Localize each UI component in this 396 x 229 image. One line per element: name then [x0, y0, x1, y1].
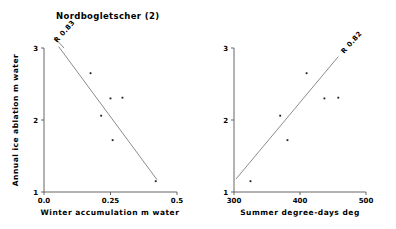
data-point-marker — [279, 115, 281, 117]
x-axis-ticks: 0.00.250.5 — [38, 192, 184, 205]
data-point-marker — [90, 72, 92, 74]
figure-container: Nordbogletscher (2) 123 0.00.250.5 R 0.8… — [0, 0, 396, 229]
data-point — [287, 139, 289, 141]
data-point — [279, 115, 281, 117]
data-point-marker — [250, 180, 252, 182]
y-tick-label: 2 — [223, 117, 228, 125]
plot-area-left: 123 0.00.250.5 R 0.83 Winter accumulatio… — [0, 0, 198, 229]
data-point-marker — [122, 97, 124, 99]
data-point — [122, 97, 124, 99]
scatter-panel-summer-degree-days: 123 300400500 R 0.82 Summer degree-days … — [198, 0, 396, 229]
data-point — [250, 180, 252, 182]
x-tick-label: 0.0 — [38, 197, 51, 205]
y-axis-ticks: 123 — [33, 45, 44, 197]
x-axis-title: Summer degree-days deg — [240, 208, 360, 217]
data-point — [306, 72, 308, 74]
x-tick-label: 0.5 — [171, 197, 184, 205]
data-point-marker — [100, 115, 102, 117]
data-point-marker — [337, 97, 339, 99]
data-point — [112, 139, 114, 141]
data-point — [100, 115, 102, 117]
regression-line — [59, 47, 157, 180]
x-tick-label: 400 — [293, 197, 308, 205]
data-point — [324, 98, 326, 100]
plot-area-right: 123 300400500 R 0.82 Summer degree-days … — [198, 0, 396, 229]
data-point-marker — [155, 180, 157, 182]
y-tick-label: 3 — [33, 45, 38, 53]
y-tick-label: 2 — [33, 117, 38, 125]
correlation-annotation: R 0.83 — [53, 19, 77, 45]
data-point-marker — [110, 98, 112, 100]
x-tick-label: 300 — [227, 197, 242, 205]
data-point — [90, 72, 92, 74]
regression-line — [236, 57, 338, 179]
data-point-group — [250, 72, 340, 182]
y-axis-ticks: 123 — [223, 45, 234, 197]
x-axis-ticks: 300400500 — [227, 192, 374, 205]
data-point-marker — [287, 139, 289, 141]
data-point — [337, 97, 339, 99]
data-point — [155, 180, 157, 182]
correlation-annotation: R 0.82 — [340, 30, 364, 56]
y-tick-label: 1 — [223, 189, 228, 197]
scatter-panel-winter-accumulation: Nordbogletscher (2) 123 0.00.250.5 R 0.8… — [0, 0, 198, 229]
data-point-marker — [324, 98, 326, 100]
y-axis-title: Annual ice ablation m water — [11, 54, 20, 186]
x-tick-label: 500 — [359, 197, 374, 205]
y-tick-label: 1 — [33, 189, 38, 197]
y-tick-label: 3 — [223, 45, 228, 53]
data-point-marker — [112, 139, 114, 141]
data-point — [110, 98, 112, 100]
x-tick-label: 0.25 — [102, 197, 119, 205]
x-axis-title: Winter accumulation m water — [41, 208, 180, 217]
data-point-marker — [306, 72, 308, 74]
